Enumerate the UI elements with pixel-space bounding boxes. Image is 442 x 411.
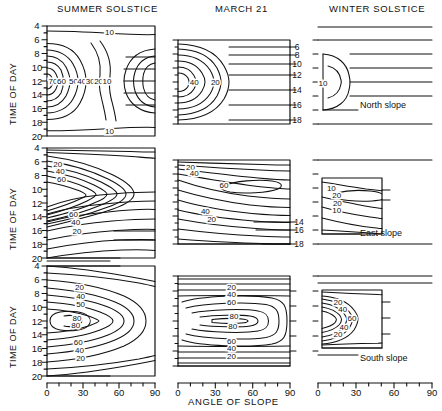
row-label-north-slope: North slope	[360, 100, 406, 110]
x-tick: 30	[351, 387, 362, 398]
contour-label: 10	[103, 77, 112, 86]
contour-label: 10	[105, 28, 114, 37]
contour-label: 60	[348, 314, 357, 323]
y-tick: 4	[34, 142, 39, 153]
x-tick: 0	[44, 387, 49, 398]
contour-label: 20	[75, 283, 84, 292]
contour-label: 60	[220, 181, 229, 190]
x-tick: 60	[389, 387, 400, 398]
contour-label: 10	[332, 206, 341, 215]
y-tick: 16	[32, 343, 43, 354]
y-tick: 14	[32, 211, 43, 222]
svg-text:18: 18	[294, 239, 304, 249]
svg-text:12: 12	[292, 70, 302, 80]
contour-label: 20	[73, 227, 82, 236]
x-tick: 60	[114, 387, 125, 398]
x-tick: 90	[285, 387, 296, 398]
x-tick: 0	[315, 387, 320, 398]
x-tick: 30	[78, 387, 89, 398]
column-title-summer-solstice: SUMMER SOLSTICE	[57, 3, 158, 14]
y-tick: 12	[32, 198, 43, 209]
y-tick: 16	[32, 225, 43, 236]
contour-plot-svg: 4 6 8 10 12 14 16 18 20 4 6 8 10 12 14 1…	[0, 0, 442, 411]
y-tick: 10	[32, 302, 43, 313]
y-tick: 10	[32, 62, 43, 73]
svg-text:14: 14	[292, 85, 302, 95]
contour-label: 10	[105, 127, 114, 136]
y-tick: 6	[34, 156, 39, 167]
y-tick: 10	[32, 184, 43, 195]
y-tick: 16	[32, 103, 43, 114]
panel-summer-south	[42, 261, 155, 376]
y-tick: 18	[32, 357, 43, 368]
march-north-hour-labels: 6 8 10 12 14 16 18	[292, 42, 302, 125]
y-tick: 12	[32, 316, 43, 327]
svg-text:10: 10	[292, 59, 302, 69]
y-tick: 4	[34, 260, 39, 271]
contour-label: 80	[230, 312, 239, 321]
contour-label: 50	[76, 300, 85, 309]
panel-winter-south	[313, 276, 432, 355]
svg-text:16: 16	[292, 100, 302, 110]
x-tick: 90	[150, 387, 161, 398]
y-tick: 6	[34, 34, 39, 45]
contour-label: 40	[190, 78, 199, 87]
contour-label: 60	[57, 175, 66, 184]
contour-label: 20	[227, 352, 236, 361]
contour-label: 10	[319, 79, 328, 88]
y-tick: 18	[32, 117, 43, 128]
svg-text:16: 16	[294, 225, 304, 235]
contour-label: 80	[228, 322, 237, 331]
contour-label: 40	[338, 305, 347, 314]
row-label-east-slope: East slope	[360, 228, 402, 238]
contour-label: 60	[57, 77, 66, 86]
contour-label: 40	[190, 169, 199, 178]
row-label-south-slope: South slope	[360, 353, 408, 363]
y-tick: 8	[34, 48, 39, 59]
x-tick: 90	[427, 387, 438, 398]
x-axis-title: ANGLE OF SLOPE	[188, 396, 279, 407]
contour-label: 20	[207, 215, 216, 224]
contour-label: 20	[334, 330, 343, 339]
y-tick: 20	[32, 131, 43, 142]
contour-label: 20	[76, 354, 85, 363]
contour-label: 80	[71, 321, 80, 330]
y-axis-title-row-south: TIME OF DAY	[8, 306, 18, 368]
y-tick: 14	[32, 329, 43, 340]
contour-figure-panel-grid: SUMMER SOLSTICE MARCH 21 WINTER SOLSTICE…	[0, 0, 442, 411]
y-tick: 18	[32, 239, 43, 250]
column-title-winter-solstice: WINTER SOLSTICE	[329, 3, 425, 14]
y-tick-labels: 4 6 8 10 12 14 16 18 20 4 6 8 10 12 14 1…	[32, 20, 43, 382]
y-tick: 12	[32, 76, 43, 87]
y-axis-title-row-east: TIME OF DAY	[8, 188, 18, 250]
y-tick: 6	[34, 274, 39, 285]
y-tick: 14	[32, 89, 43, 100]
x-tick: 0	[175, 387, 180, 398]
march-east-hour-labels: 14 16 18	[294, 217, 304, 249]
svg-text:18: 18	[292, 115, 302, 125]
contour-label: 20	[211, 78, 220, 87]
y-tick: 20	[32, 371, 43, 382]
y-tick: 8	[34, 170, 39, 181]
contour-label: 60	[227, 298, 236, 307]
column-title-march-21: MARCH 21	[215, 3, 268, 14]
y-tick: 8	[34, 288, 39, 299]
y-axis-title-row-north: TIME OF DAY	[8, 63, 18, 125]
y-tick: 4	[34, 20, 39, 31]
